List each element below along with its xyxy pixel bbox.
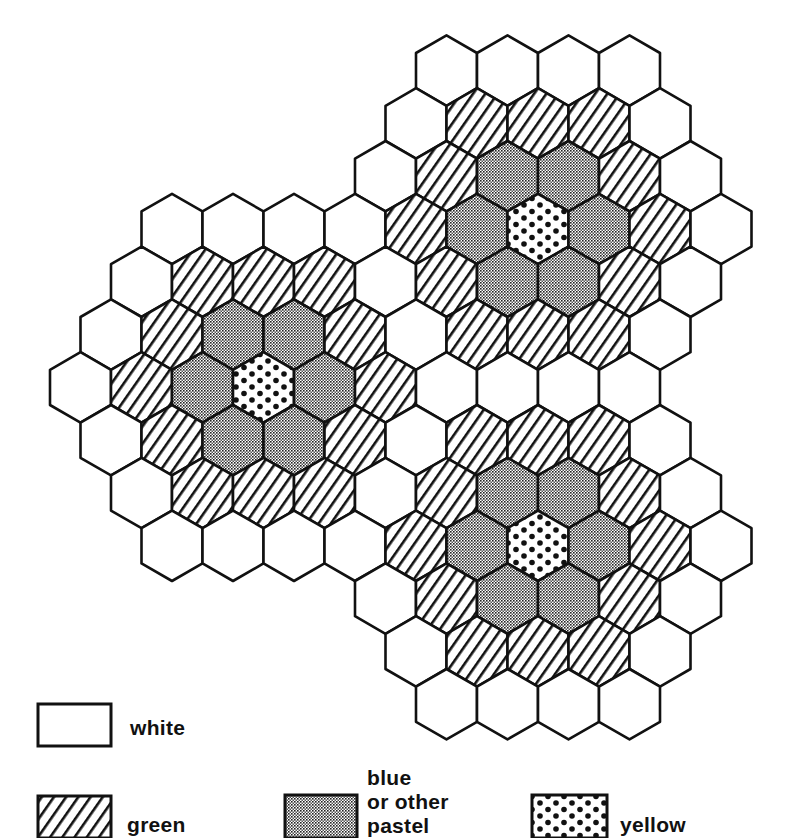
legend-label-green: green — [127, 813, 186, 837]
legend-swatch-yellow — [532, 795, 607, 838]
legend-label-line: pastel — [367, 814, 449, 838]
legend-label-white: white — [130, 716, 185, 740]
legend-label-line: or other — [367, 790, 449, 814]
hex-planting-diagram — [0, 0, 799, 838]
legend-label-line: blue — [367, 766, 449, 790]
legend-label-yellow: yellow — [620, 813, 686, 837]
legend-label-line: yellow — [620, 813, 686, 837]
legend-label-line: white — [130, 716, 185, 740]
legend-label-line: green — [127, 813, 186, 837]
legend-label-blue: blueor otherpastel — [367, 766, 449, 838]
legend-swatch-white — [38, 704, 111, 746]
legend-swatch-blue — [285, 795, 357, 838]
hex-grid — [50, 35, 752, 739]
legend-swatch-green — [38, 796, 111, 838]
